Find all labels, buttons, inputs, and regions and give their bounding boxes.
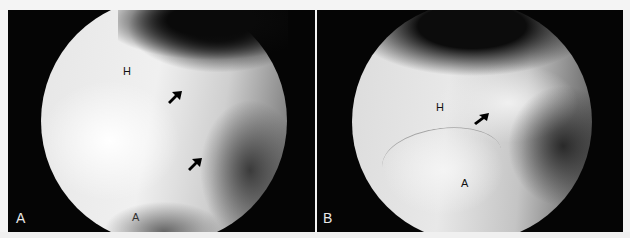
label-anterior-b: A [461, 178, 468, 189]
dark-joint-space-a [118, 10, 288, 60]
panel-b: H A B [317, 10, 623, 232]
arrow-icon-a2 [186, 155, 206, 175]
label-humeral-head-a: H [123, 66, 131, 77]
label-anterior-a: A [132, 212, 139, 223]
caption-strip [0, 232, 630, 238]
panel-a: H A A [8, 10, 315, 232]
arrow-icon-a1 [166, 88, 186, 108]
arrow-icon-b1 [472, 110, 492, 130]
label-humeral-head-b: H [436, 102, 444, 113]
panel-label-a: A [16, 211, 25, 225]
panel-label-b: B [323, 211, 332, 225]
